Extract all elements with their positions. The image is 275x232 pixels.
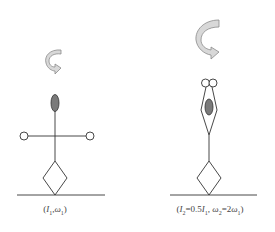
- caption-extended: (I1,ω1): [43, 204, 67, 216]
- left-hand-weight: [202, 79, 210, 87]
- figure-raised-arms: [170, 20, 257, 195]
- equation-part: =2: [222, 204, 232, 214]
- caption-raised: (I2=0.5I1, ω2=2ω1): [176, 204, 243, 216]
- paren: ): [241, 204, 244, 214]
- pivot-diamond: [43, 161, 67, 195]
- left-hand-weight: [20, 132, 28, 140]
- rotation-arrow-icon: [46, 50, 61, 74]
- head: [51, 95, 59, 112]
- rotation-arrow-icon: [196, 20, 219, 59]
- paren: ): [64, 204, 67, 214]
- right-hand-weight: [86, 132, 94, 140]
- separator: ,: [208, 204, 210, 214]
- pivot-diamond: [197, 161, 221, 195]
- right-hand-weight: [209, 79, 217, 87]
- head: [205, 99, 213, 115]
- diagram-canvas: [0, 0, 275, 232]
- figure-extended-arms: [17, 50, 105, 195]
- equation-part: =0.5: [185, 204, 201, 214]
